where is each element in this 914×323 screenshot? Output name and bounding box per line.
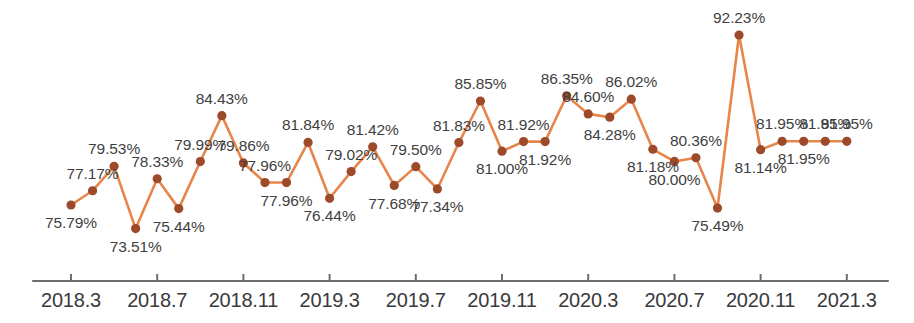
data-point-marker[interactable] [842,137,851,146]
x-axis-tick-label: 2021.3 [817,289,877,312]
data-point-label: 81.95% [778,150,830,168]
data-point-label: 79.86% [217,137,269,155]
data-point-marker[interactable] [174,204,183,213]
x-axis-tick-label: 2020.11 [726,289,795,312]
x-axis-tick-label: 2019.7 [386,289,446,312]
data-point-marker[interactable] [756,145,765,154]
data-point-marker[interactable] [66,200,75,209]
data-point-marker[interactable] [605,113,614,122]
x-axis-tick-label: 2020.7 [644,289,704,312]
data-point-label: 84.28% [584,126,636,144]
data-point-label: 77.34% [411,198,463,216]
x-axis-tick-label: 2018.11 [209,289,278,312]
data-point-marker[interactable] [411,162,420,171]
data-point-label: 81.92% [519,151,571,169]
data-point-label: 80.00% [648,171,700,189]
data-point-marker[interactable] [541,137,550,146]
x-axis-tick-label: 2019.11 [467,289,536,312]
data-point-marker[interactable] [799,137,808,146]
data-point-label: 79.50% [390,141,442,159]
data-point-marker[interactable] [153,174,162,183]
data-point-marker[interactable] [347,167,356,176]
data-point-label: 75.49% [692,217,744,235]
data-point-marker[interactable] [454,138,463,147]
data-point-marker[interactable] [325,194,334,203]
data-point-label: 85.85% [454,75,506,93]
x-axis [33,274,888,281]
data-point-marker[interactable] [497,147,506,156]
data-point-label: 81.42% [347,121,399,139]
data-point-marker[interactable] [648,145,657,154]
x-axis-tick-label: 2019.3 [300,289,360,312]
data-point-label: 86.02% [605,73,657,91]
data-point-marker[interactable] [476,96,485,105]
x-axis-tick-label: 2018.3 [41,289,101,312]
data-point-marker[interactable] [519,137,528,146]
data-point-label: 78.33% [131,153,183,171]
data-point-label: 80.36% [670,132,722,150]
data-point-label: 75.79% [45,214,97,232]
data-point-marker[interactable] [131,224,140,233]
data-point-marker[interactable] [260,178,269,187]
data-point-label: 84.43% [196,90,248,108]
data-point-marker[interactable] [303,138,312,147]
data-point-label: 81.95% [821,115,873,133]
data-point-label: 77.96% [239,157,291,175]
data-point-marker[interactable] [584,109,593,118]
data-point-label: 75.44% [153,218,205,236]
data-point-marker[interactable] [734,30,743,39]
line-chart: 75.79%77.17%79.53%73.51%78.33%75.44%79.9… [0,0,914,323]
data-point-marker[interactable] [627,95,636,104]
data-point-marker[interactable] [691,153,700,162]
data-point-label: 81.83% [433,117,485,135]
data-point-label: 73.51% [110,238,162,256]
data-point-marker[interactable] [390,181,399,190]
data-point-marker[interactable] [196,157,205,166]
data-point-label: 81.92% [498,116,550,134]
data-point-marker[interactable] [433,184,442,193]
data-point-marker[interactable] [821,137,830,146]
data-point-marker[interactable] [217,111,226,120]
x-axis-tick-label: 2020.3 [558,289,618,312]
data-point-marker[interactable] [778,137,787,146]
data-point-label: 86.35% [541,70,593,88]
data-point-label: 76.44% [304,207,356,225]
data-point-label: 92.23% [713,9,765,27]
data-point-label: 81.84% [282,116,334,134]
data-point-label: 79.02% [325,146,377,164]
data-point-label: 77.17% [67,165,119,183]
data-point-marker[interactable] [713,204,722,213]
data-point-marker[interactable] [88,186,97,195]
x-axis-tick-label: 2018.7 [127,289,187,312]
data-point-marker[interactable] [282,178,291,187]
